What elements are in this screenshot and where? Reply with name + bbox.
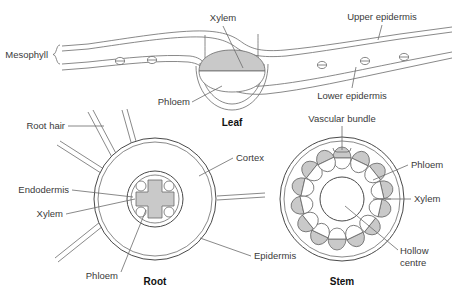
stem-hollow-centre bbox=[320, 177, 364, 221]
stoma bbox=[317, 61, 326, 68]
plant-tissue-diagram: Mesophyll Xylem Phloem Upper epidermis L… bbox=[0, 0, 463, 304]
label-root-xylem: Xylem bbox=[37, 208, 63, 219]
title-root: Root bbox=[144, 276, 167, 287]
label-root-phloem: Phloem bbox=[86, 270, 118, 281]
leaf-diagram: Mesophyll Xylem Phloem Upper epidermis L… bbox=[5, 11, 452, 128]
root-phloem-cell bbox=[164, 207, 174, 217]
label-endodermis: Endodermis bbox=[18, 184, 69, 195]
root-diagram: Root hair Endodermis Xylem Phloem Cortex… bbox=[18, 109, 296, 287]
vascular-bundle bbox=[333, 147, 351, 169]
leader-lower-epidermis bbox=[352, 67, 356, 88]
stem-diagram: Vascular bundle Phloem Xylem Hollow cent… bbox=[280, 113, 443, 287]
vascular-bundle bbox=[328, 228, 346, 250]
label-root-epidermis: Epidermis bbox=[254, 250, 296, 261]
stoma bbox=[115, 57, 124, 64]
root-hair bbox=[57, 141, 107, 175]
stoma bbox=[360, 57, 369, 64]
root-hair bbox=[217, 193, 265, 200]
label-upper-epidermis: Upper epidermis bbox=[347, 11, 417, 22]
title-stem: Stem bbox=[330, 276, 355, 287]
label-vascular-bundle: Vascular bundle bbox=[308, 113, 375, 124]
leader-root-epidermis bbox=[200, 238, 251, 256]
stoma bbox=[147, 56, 156, 63]
diagram-canvas: Mesophyll Xylem Phloem Upper epidermis L… bbox=[0, 0, 463, 304]
label-root-hair: Root hair bbox=[26, 120, 65, 131]
label-hollow-centre-2: centre bbox=[400, 257, 426, 268]
label-hollow-centre-1: Hollow bbox=[400, 245, 429, 256]
label-cortex: Cortex bbox=[236, 152, 264, 163]
root-phloem-cell bbox=[164, 181, 174, 191]
root-hair bbox=[55, 222, 103, 262]
leaf-xylem-tissue bbox=[199, 50, 265, 71]
mesophyll-brace bbox=[53, 45, 60, 64]
root-phloem-cell bbox=[136, 207, 146, 217]
label-lower-epidermis: Lower epidermis bbox=[317, 90, 387, 101]
title-leaf: Leaf bbox=[222, 117, 243, 128]
leaf-upper-epidermis-outer bbox=[62, 27, 452, 51]
leaf-phloem-tissue bbox=[199, 71, 265, 92]
label-leaf-phloem: Phloem bbox=[158, 96, 190, 107]
leaf-upper-epidermis-inner bbox=[62, 32, 452, 57]
root-phloem-cell bbox=[136, 181, 146, 191]
label-mesophyll: Mesophyll bbox=[5, 49, 48, 60]
label-leaf-xylem: Xylem bbox=[210, 12, 236, 23]
leader-upper-epidermis bbox=[378, 25, 382, 40]
label-stem-xylem: Xylem bbox=[414, 193, 440, 204]
label-stem-phloem: Phloem bbox=[411, 159, 443, 170]
stoma bbox=[399, 53, 408, 60]
